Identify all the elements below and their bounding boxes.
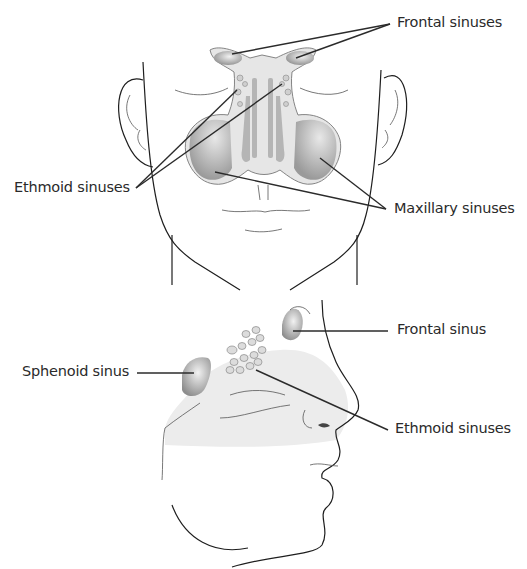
left-ear [119,79,153,167]
label-ethmoid-sinuses-side: Ethmoid sinuses [395,420,511,436]
front-view [119,24,407,290]
label-ethmoid-sinuses-front: Ethmoid sinuses [14,179,130,195]
right-ear [378,76,406,165]
label-sphenoid-sinus: Sphenoid sinus [22,363,129,379]
jaw-outline [172,505,248,550]
frontal-sinus-side [282,309,303,340]
label-frontal-sinuses: Frontal sinuses [397,14,502,30]
diagram-artwork [0,0,527,569]
label-frontal-sinus-side: Frontal sinus [397,321,486,337]
side-view [137,300,388,567]
sinus-diagram: Frontal sinuses Ethmoid sinuses Maxillar… [0,0,527,569]
label-maxillary-sinuses: Maxillary sinuses [394,200,515,216]
